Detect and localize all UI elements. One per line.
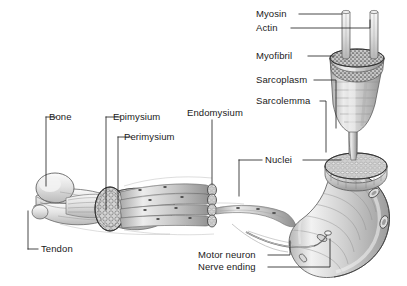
label-motor-neuron: Motor neuron — [198, 250, 256, 260]
label-epimysium: Epimysium — [113, 112, 160, 122]
label-myosin: Myosin — [256, 9, 287, 19]
label-sarcolemma: Sarcolemma — [256, 96, 310, 106]
label-nerve-ending: Nerve ending — [198, 262, 256, 272]
label-tendon: Tendon — [41, 244, 73, 254]
muscle-anatomy-figure: Myosin Actin Myofibril Sarcoplasm Sarcol… — [0, 0, 407, 286]
label-nuclei: Nuclei — [265, 155, 292, 165]
label-myofibril: Myofibril — [256, 51, 292, 61]
label-actin: Actin — [256, 23, 278, 33]
label-layer: Myosin Actin Myofibril Sarcoplasm Sarcol… — [0, 0, 407, 286]
label-perimysium: Perimysium — [124, 132, 175, 142]
label-sarcoplasm: Sarcoplasm — [256, 75, 307, 85]
label-endomysium: Endomysium — [187, 108, 243, 118]
label-bone: Bone — [49, 112, 72, 122]
